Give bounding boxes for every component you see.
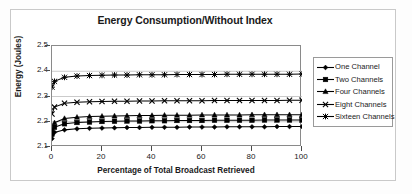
legend-item-label: Sixteen Channels [335, 113, 395, 121]
data-point-marker [187, 118, 192, 123]
data-point-marker [250, 118, 255, 123]
data-point-marker [87, 73, 93, 79]
data-point-marker [300, 118, 302, 123]
x-tick-mark [251, 146, 252, 151]
data-point-marker [75, 126, 80, 131]
legend-item-triangle[interactable]: Four Channels [316, 86, 390, 98]
legend-item-label: Two Channels [335, 76, 383, 84]
data-point-marker [225, 124, 230, 129]
data-point-marker [52, 105, 57, 110]
data-point-marker [124, 72, 130, 78]
y-tick-mark [45, 70, 50, 71]
data-point-marker [62, 74, 68, 80]
data-point-marker [287, 71, 293, 77]
x-tick-mark [301, 146, 302, 151]
legend-item-diamond[interactable]: One Channel [316, 61, 390, 73]
legend-marker-icon [316, 62, 335, 73]
data-point-marker [323, 65, 328, 70]
data-point-marker [162, 72, 168, 78]
data-point-marker [62, 121, 67, 126]
data-point-marker [187, 125, 192, 130]
data-point-marker [99, 72, 105, 78]
data-point-marker [62, 127, 67, 132]
data-point-marker [199, 72, 205, 78]
data-point-marker [100, 119, 105, 124]
data-point-marker [75, 120, 80, 125]
x-axis-tick-labels: 020406080100 [51, 152, 301, 164]
data-point-marker [275, 124, 280, 129]
data-point-marker [175, 118, 180, 123]
data-point-marker [187, 72, 193, 78]
data-point-marker [224, 71, 230, 77]
data-point-marker [250, 124, 255, 129]
data-point-marker [174, 72, 180, 78]
data-point-marker [125, 125, 130, 130]
x-tick-label: 80 [236, 152, 266, 161]
data-point-marker [200, 118, 205, 123]
data-point-marker [87, 126, 92, 131]
legend-item-label: Eight Channels [335, 101, 387, 109]
legend-item-label: Four Channels [335, 88, 385, 96]
y-tick-mark [45, 45, 50, 46]
data-point-marker [137, 119, 142, 124]
data-point-marker [212, 72, 218, 78]
x-tick-label: 100 [286, 152, 316, 161]
data-point-marker [74, 73, 80, 79]
data-point-marker [150, 118, 155, 123]
x-tick-label: 20 [86, 152, 116, 161]
data-point-marker [162, 118, 167, 123]
data-point-marker [137, 125, 142, 130]
y-tick-mark [45, 146, 50, 147]
data-point-marker [112, 119, 117, 124]
x-tick-label: 40 [136, 152, 166, 161]
data-point-marker [249, 71, 255, 77]
y-tick-mark [45, 96, 50, 97]
legend-item-label: One Channel [335, 63, 380, 71]
data-point-marker [262, 124, 267, 129]
x-tick-label: 0 [36, 152, 66, 161]
data-point-marker [237, 124, 242, 129]
legend-marker-icon [316, 74, 335, 85]
data-point-marker [125, 119, 130, 124]
data-point-marker [52, 84, 55, 90]
data-point-marker [149, 72, 155, 78]
data-point-marker [112, 72, 118, 78]
data-point-marker [225, 118, 230, 123]
plot-canvas [52, 46, 302, 147]
x-tick-label: 60 [186, 152, 216, 161]
chart-legend: One ChannelTwo ChannelsFour ChannelsEigh… [313, 57, 393, 127]
data-point-marker [137, 72, 143, 78]
series-1 [52, 124, 302, 141]
data-point-marker [112, 125, 117, 130]
legend-marker-icon [316, 99, 335, 110]
chart-title: Energy Consumption/Without Index [60, 14, 310, 26]
legend-marker-icon [316, 111, 335, 122]
x-axis-title: Percentage of Total Broadcast Retrieved [51, 166, 301, 175]
legend-item-asterisk[interactable]: Sixteen Channels [316, 111, 390, 123]
data-point-marker [100, 126, 105, 131]
data-point-marker [275, 118, 280, 123]
data-point-marker [200, 125, 205, 130]
legend-marker-icon [316, 86, 335, 97]
data-point-marker [212, 125, 217, 130]
y-axis-tick-labels: 2.12.22.32.42.5 [20, 45, 48, 146]
data-point-marker [262, 71, 268, 77]
chart-figure: Energy Consumption/Without Index Energy … [0, 0, 412, 194]
data-point-marker [212, 118, 217, 123]
data-point-marker [287, 124, 292, 129]
data-point-marker [52, 78, 57, 84]
data-point-marker [300, 124, 302, 129]
data-point-marker [162, 125, 167, 130]
x-tick-mark [101, 146, 102, 151]
data-point-marker [299, 71, 302, 77]
legend-item-x[interactable]: Eight Channels [316, 98, 390, 110]
data-point-marker [262, 118, 267, 123]
x-tick-mark [151, 146, 152, 151]
series-5 [52, 71, 302, 90]
x-tick-mark [201, 146, 202, 151]
y-tick-mark [45, 121, 50, 122]
plot-area [51, 45, 301, 146]
data-point-marker [87, 120, 92, 125]
legend-item-square[interactable]: Two Channels [316, 73, 390, 85]
data-point-marker [237, 118, 242, 123]
